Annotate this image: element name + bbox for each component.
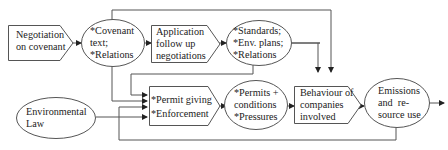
node-environmental-law: Environmental Law [16, 97, 96, 139]
node-permit-giving: *Permit giving *Enforcement [149, 86, 221, 126]
node-emissions-resource-use: Emissions and re- source use [364, 78, 430, 128]
node-behaviour-of-companies: Behaviour of companies involved [294, 86, 362, 124]
node-negotiation-on-covenant: Negotiation on covenant [8, 25, 74, 61]
node-permits-conditions: *Permits + conditions *Pressures [224, 80, 288, 130]
node-covenant-text: *Covenant text; *Relations [81, 19, 145, 67]
node-standards: *Standards; *Env. plans; *Relations [226, 20, 292, 66]
node-application-follow-up: Application follow up negotiations [151, 25, 221, 63]
